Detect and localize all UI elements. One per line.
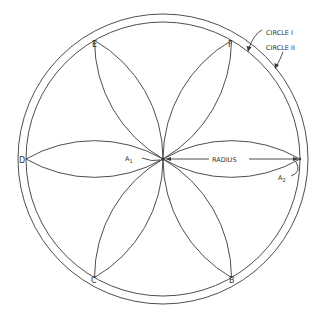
circle-i-leader xyxy=(249,30,262,48)
point-label-d: D xyxy=(19,156,25,165)
point-label-e: E xyxy=(92,40,97,49)
point-label-f: F xyxy=(228,40,233,49)
circle-ii-arrow xyxy=(275,63,280,69)
a2-label: A2 xyxy=(278,174,286,183)
point-label-c: C xyxy=(91,276,97,285)
a1-leader xyxy=(142,158,160,161)
circle-i-label: CIRCLE I xyxy=(266,29,293,37)
hexafoil-diagram: E F D C B CIRCLE I CIRCLE II RADIUS A1 A… xyxy=(0,0,327,311)
a2-leader xyxy=(291,162,298,176)
point-label-b: B xyxy=(229,276,235,285)
a2-point xyxy=(299,158,301,160)
a1-label: A1 xyxy=(125,155,133,164)
circle-ii-label: CIRCLE II xyxy=(266,44,295,52)
radius-label: RADIUS xyxy=(212,156,237,164)
center-point xyxy=(161,157,164,160)
